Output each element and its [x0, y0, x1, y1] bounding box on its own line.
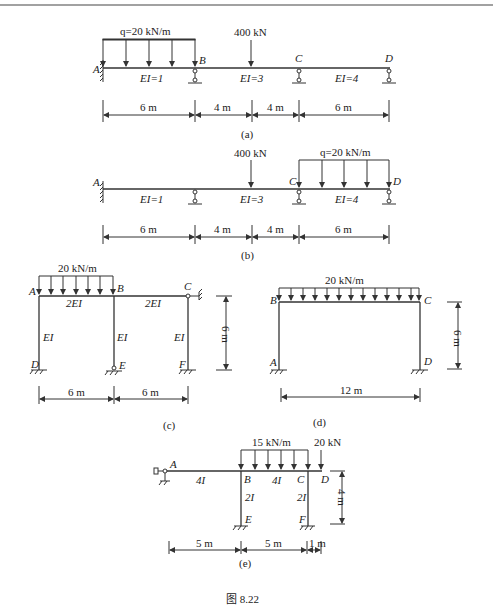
figure-caption: 图 8.22 [226, 593, 259, 605]
panel-c: 20 kN/m A B C 2EI 2EI EI EI EI D E F 6 m [28, 262, 232, 432]
dimension-label: 6 m [335, 101, 352, 113]
node-D: D [392, 175, 401, 187]
height-dimension-label: 4 m [336, 489, 348, 506]
distributed-load-label: 20 kN/m [58, 262, 97, 274]
distributed-load-label: q=20 kN/m [120, 25, 171, 37]
roller-support-icon [382, 190, 396, 204]
ei-label: EI=3 [239, 72, 264, 84]
ei-label: EI [173, 331, 186, 343]
dimension-label: 6 m [140, 223, 157, 235]
panel-d: 20 kN/m B C A D 6 m 12 m (d) [269, 274, 464, 429]
height-dimension-label: 6 m [452, 330, 464, 347]
panel-label: (d) [313, 416, 326, 429]
fixed-support-icon [233, 526, 248, 530]
node-D: D [423, 355, 432, 367]
ei-label: EI [116, 331, 129, 343]
distributed-load-label: q=20 kN/m [320, 146, 371, 158]
node-E: E [118, 359, 126, 371]
fixed-support-icon [30, 370, 47, 374]
panel-e: 15 kN/m 20 kN A B C D 4I 4I 2I 2I E F [154, 436, 348, 570]
fixed-support-icon [411, 370, 428, 374]
dimension-label: 6 m [140, 101, 157, 113]
node-B: B [270, 294, 277, 306]
dimension-label: 6 m [335, 223, 352, 235]
node-B: B [244, 473, 251, 485]
dimension-label: 1 m [309, 537, 326, 549]
dimension-label: 4 m [267, 101, 284, 113]
point-load-label: 400 kN [234, 26, 267, 38]
panel-label: (e) [239, 557, 252, 570]
panel-b: A 400 kN q=20 kN/m C [92, 146, 401, 262]
stiffness-label: 4I [272, 474, 283, 486]
node-D: D [384, 52, 393, 64]
ei-label: EI=1 [139, 193, 163, 205]
dimension-label: 5 m [196, 537, 213, 549]
node-D: D [320, 473, 329, 485]
ei-label: EI=3 [239, 193, 264, 205]
figure-canvas: A q=20 kN/m 400 kN B C D EI=1 EI=3 EI=4 [0, 0, 493, 611]
dimension-label: 4 m [267, 223, 284, 235]
node-F: F [298, 513, 306, 525]
roller-support-icon [292, 190, 306, 204]
point-load-label: 20 kN [314, 436, 341, 448]
dimension-label: 4 m [214, 101, 231, 113]
panel-label: (c) [163, 419, 176, 432]
point-load-label: 400 kN [234, 147, 267, 159]
dimension-label: 4 m [214, 223, 231, 235]
distributed-load-arrows [279, 288, 419, 300]
node-D: D [30, 358, 39, 370]
node-B: B [117, 282, 124, 294]
ei-label: 2EI [66, 297, 83, 309]
node-A: A [92, 176, 100, 188]
node-A: A [169, 458, 177, 470]
ei-label: EI=1 [139, 72, 163, 84]
node-F: F [178, 358, 186, 370]
stiffness-label: 2I [245, 491, 256, 503]
node-E: E [244, 513, 252, 525]
node-C: C [184, 280, 192, 292]
panel-a: A q=20 kN/m 400 kN B C D EI=1 EI=3 EI=4 [92, 25, 396, 141]
roller-support-icon [188, 190, 202, 204]
distributed-load-label: 15 kN/m [252, 436, 291, 448]
stiffness-label: 2I [297, 491, 308, 503]
height-dimension-label: 6 m [220, 326, 232, 343]
fixed-support-icon [300, 526, 315, 530]
stiffness-label: 4I [196, 474, 207, 486]
fixed-support-icon [270, 370, 287, 374]
node-A: A [28, 285, 36, 297]
dimension-label: 6 m [142, 386, 159, 398]
fixed-support-icon [179, 370, 196, 374]
ei-label: 2EI [145, 297, 162, 309]
slider-support-icon [190, 289, 202, 300]
dimension-label: 5 m [265, 537, 282, 549]
node-A: A [92, 63, 100, 75]
node-C: C [297, 473, 305, 485]
node-C: C [295, 52, 303, 64]
distributed-load-label: 20 kN/m [325, 274, 364, 286]
node-A: A [269, 356, 277, 368]
panel-label: (a) [241, 128, 254, 141]
dimension-label: 12 m [340, 384, 363, 396]
ei-label: EI=4 [334, 193, 359, 205]
ei-label: EI=4 [334, 72, 359, 84]
dimension-label: 6 m [68, 386, 85, 398]
panel-label: (b) [241, 249, 254, 262]
ei-label: EI [42, 331, 55, 343]
node-C: C [424, 294, 432, 306]
node-B: B [199, 54, 206, 66]
hinge-support-icon [105, 371, 122, 375]
node-C: C [289, 175, 297, 187]
